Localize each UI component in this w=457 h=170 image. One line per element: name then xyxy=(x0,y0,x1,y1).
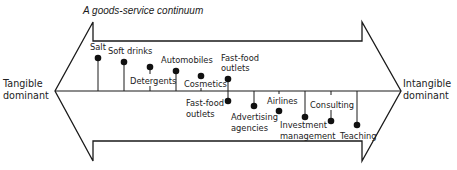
marker-dot-icon xyxy=(328,118,335,125)
svg-text:outlets: outlets xyxy=(221,63,250,73)
item-salt: Salt xyxy=(90,42,107,91)
marker-dot-icon xyxy=(225,76,232,83)
svg-text:Fast-food: Fast-food xyxy=(186,98,224,108)
svg-text:Detergents: Detergents xyxy=(130,76,176,86)
marker-dot-icon xyxy=(173,68,180,75)
svg-text:Airlines: Airlines xyxy=(267,96,298,106)
marker-dot-icon xyxy=(251,103,258,110)
tangible-dominant-label: Tangible dominant xyxy=(2,78,49,101)
svg-text:Tangible: Tangible xyxy=(2,78,43,89)
svg-text:Automobiles: Automobiles xyxy=(161,55,213,65)
diagram-title: A goods-service continuum xyxy=(82,5,203,16)
svg-text:outlets: outlets xyxy=(186,109,215,119)
svg-text:agencies: agencies xyxy=(231,123,268,133)
item-fast-food-outlets-upper: Fast-food outlets xyxy=(221,53,259,101)
svg-text:Salt: Salt xyxy=(90,42,107,52)
svg-text:Advertising: Advertising xyxy=(231,112,278,122)
svg-text:dominant: dominant xyxy=(3,90,49,101)
marker-dot-icon xyxy=(147,64,154,71)
svg-text:Intangible: Intangible xyxy=(403,78,451,89)
marker-dot-icon xyxy=(225,98,232,105)
svg-text:Consulting: Consulting xyxy=(310,100,354,110)
svg-text:management: management xyxy=(280,131,336,141)
item-cosmetics: Cosmetics xyxy=(184,73,227,91)
svg-text:dominant: dominant xyxy=(403,90,449,101)
marker-dot-icon xyxy=(276,108,283,115)
intangible-dominant-label: Intangible dominant xyxy=(403,78,451,101)
svg-text:Cosmetics: Cosmetics xyxy=(184,79,227,89)
marker-dot-icon xyxy=(95,55,102,62)
svg-text:Investment: Investment xyxy=(280,120,328,130)
svg-text:Fast-food: Fast-food xyxy=(221,53,259,63)
svg-text:Teaching: Teaching xyxy=(339,131,377,141)
item-teaching: Teaching xyxy=(339,91,377,141)
item-fast-food-outlets-lower: Fast-food outlets xyxy=(186,98,231,119)
item-detergents: Detergents xyxy=(130,64,176,91)
marker-dot-icon xyxy=(121,59,128,66)
svg-text:Soft drinks: Soft drinks xyxy=(108,46,152,56)
marker-dot-icon xyxy=(354,122,361,129)
goods-service-continuum-diagram: A goods-service continuum Tangible domin… xyxy=(0,0,457,170)
item-airlines: Airlines xyxy=(267,91,298,114)
